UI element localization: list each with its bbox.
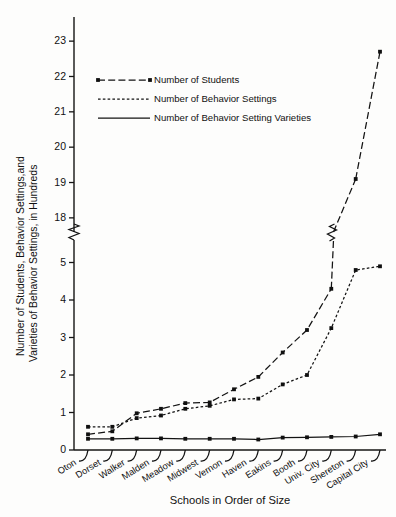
series-layer	[86, 50, 382, 442]
x-axis-title: Schools in Order of Size	[170, 494, 291, 506]
x-tick-midwest	[201, 450, 210, 461]
data-point	[208, 437, 212, 441]
data-point	[110, 437, 114, 441]
data-point	[208, 404, 212, 408]
y-tick-label-22: 22	[54, 70, 66, 82]
data-point	[354, 268, 358, 272]
data-point	[354, 177, 358, 181]
data-point	[378, 432, 382, 436]
x-tick-walker	[128, 450, 137, 461]
y-tick-label-20: 20	[54, 140, 66, 152]
x-tick-label-vernon: Vernon	[194, 457, 224, 481]
data-point	[281, 436, 285, 440]
data-point	[232, 398, 236, 402]
data-point	[305, 435, 309, 439]
legend-label-number-of-students: Number of Students	[154, 74, 240, 85]
data-point	[183, 401, 187, 405]
data-point	[135, 437, 139, 441]
x-axis: OtonDorsetWalkerMaldenMeadowMidwestVerno…	[56, 450, 386, 491]
data-point	[378, 50, 382, 54]
y-tick-label-19: 19	[54, 176, 66, 188]
line-chart: 012345181920212223 OtonDorsetWalkerMalde…	[0, 0, 396, 517]
x-tick-label-dorset: Dorset	[74, 457, 103, 480]
data-point	[86, 432, 90, 436]
series-number-of-behavior-setting-varieties	[86, 432, 382, 441]
data-point	[183, 407, 187, 411]
x-tick-malden	[152, 450, 161, 461]
x-tick-dorset	[103, 450, 112, 461]
data-point	[256, 397, 260, 401]
x-tick-vernon	[225, 450, 234, 461]
x-tick-eakins	[274, 450, 283, 461]
y-axis-title-line-1: Number of Students, Behavior Settings,an…	[15, 156, 26, 356]
data-point	[232, 437, 236, 441]
y-tick-label-21: 21	[54, 105, 66, 117]
data-point	[305, 373, 309, 377]
y-axis: 012345181920212223	[54, 17, 79, 455]
y-tick-label-4: 4	[60, 293, 66, 305]
data-point	[159, 437, 163, 441]
x-tick-booth	[298, 450, 307, 461]
series-path-number-of-behavior-settings	[88, 266, 380, 427]
data-point	[329, 435, 333, 439]
legend-label-number-of-behavior-settings: Number of Behavior Settings	[154, 93, 277, 104]
data-point	[86, 425, 90, 429]
series-path-number-of-students	[88, 52, 380, 435]
data-point	[305, 328, 309, 332]
axis-titles: Number of Students, Behavior Settings,an…	[15, 156, 290, 506]
data-point	[281, 383, 285, 387]
x-tick-meadow	[176, 450, 185, 461]
data-point	[110, 429, 114, 433]
y-axis-title-line-2: Varieties of Behavior Settings, in Hundr…	[28, 165, 39, 362]
data-point	[110, 425, 114, 429]
y-tick-label-1: 1	[60, 406, 66, 418]
x-tick-oton	[79, 450, 88, 461]
data-point	[354, 435, 358, 439]
data-point	[256, 438, 260, 442]
series-number-of-students	[86, 50, 382, 436]
x-tick-capital-city	[371, 450, 380, 461]
data-point	[281, 351, 285, 355]
chart-page: 012345181920212223 OtonDorsetWalkerMalde…	[0, 0, 396, 517]
series-break-upper-number-of-students	[334, 179, 356, 232]
chart-legend: Number of StudentsNumber of Behavior Set…	[96, 74, 311, 123]
data-point	[208, 401, 212, 405]
y-tick-label-23: 23	[54, 34, 66, 46]
series-number-of-behavior-settings	[86, 264, 382, 428]
x-tick-haven	[249, 450, 258, 461]
data-point	[135, 411, 139, 415]
y-tick-label-18: 18	[54, 211, 66, 223]
data-point	[329, 326, 333, 330]
legend-marker-end	[148, 78, 152, 82]
data-point	[256, 375, 260, 379]
x-tick-shereton	[347, 450, 356, 461]
x-tick-label-eakins: Eakins	[244, 457, 273, 480]
series-break-lower-number-of-students	[331, 240, 333, 289]
data-point	[159, 414, 163, 418]
x-tick-label-haven: Haven	[220, 457, 248, 480]
data-point	[232, 387, 236, 391]
y-tick-label-3: 3	[60, 331, 66, 343]
x-tick-univ-city	[322, 450, 331, 461]
data-point	[183, 437, 187, 441]
data-point	[159, 407, 163, 411]
legend-marker-start	[96, 78, 100, 82]
data-point	[378, 264, 382, 268]
y-tick-label-5: 5	[60, 256, 66, 268]
data-point	[86, 437, 90, 441]
data-point	[135, 416, 139, 420]
y-tick-label-0: 0	[60, 443, 66, 455]
data-point	[329, 287, 333, 291]
legend-label-number-of-behavior-setting-varieties: Number of Behavior Setting Varieties	[154, 112, 311, 123]
y-tick-label-2: 2	[60, 368, 66, 380]
